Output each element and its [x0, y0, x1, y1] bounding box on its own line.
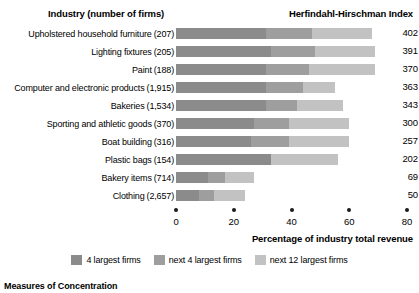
axis-tick-label: 20	[214, 216, 254, 227]
hhi-value: 363	[392, 81, 418, 92]
axis-tick-dot	[405, 208, 409, 212]
bar-segment-s1	[176, 172, 208, 183]
bar-segment-s3	[289, 136, 350, 147]
row-industry-label: Upholstered household furniture(207)	[28, 28, 174, 40]
stacked-bar	[176, 172, 254, 183]
bar-segment-s2	[266, 28, 312, 39]
hhi-value: 370	[392, 63, 418, 74]
hhi-value: 343	[392, 99, 418, 110]
axis-tick-label: 40	[272, 216, 312, 227]
stacked-bar	[176, 64, 375, 75]
bar-segment-s2	[199, 190, 213, 201]
industry-name: Sporting and athletic goods	[47, 119, 152, 129]
industry-name: Lighting fixtures	[91, 47, 152, 57]
concentration-chart: Industry (number of firms) Herfindahl-Hi…	[0, 0, 419, 293]
hhi-value: 50	[392, 189, 418, 200]
industry-name: Upholstered household furniture	[28, 29, 151, 39]
firm-count: (714)	[154, 173, 174, 183]
firm-count: (2,657)	[147, 191, 174, 201]
firm-count: (1,534)	[147, 101, 174, 111]
row-industry-label: Boat building(316)	[102, 136, 174, 148]
hhi-value: 69	[392, 171, 418, 182]
bar-segment-s2	[266, 82, 304, 93]
bar-segment-s1	[176, 190, 199, 201]
industry-name: Plastic bags	[105, 155, 152, 165]
hhi-value: 202	[392, 153, 418, 164]
bar-segment-s1	[176, 154, 271, 165]
bar-segment-s1	[176, 118, 254, 129]
axis-tick-label: 0	[156, 216, 196, 227]
bar-segment-s2	[254, 118, 289, 129]
stacked-bar	[176, 100, 343, 111]
bar-segment-s1	[176, 136, 251, 147]
table-row: Plastic bags(154)202	[0, 154, 419, 168]
legend-swatch-s1	[71, 255, 82, 265]
stacked-bar	[176, 82, 335, 93]
table-row: Lighting fixtures(205)391	[0, 46, 419, 60]
row-industry-label: Paint(188)	[132, 64, 174, 76]
axis-tick-dot	[347, 208, 351, 212]
bar-segment-s2	[208, 172, 225, 183]
axis-tick-dot	[174, 208, 178, 212]
bar-segment-s2	[266, 64, 309, 75]
bar-segment-s3	[214, 190, 246, 201]
bar-segment-s2	[266, 100, 298, 111]
legend-label: next 12 largest firms	[270, 255, 348, 265]
table-row: Upholstered household furniture(207)402	[0, 28, 419, 42]
legend-swatch-s2	[154, 255, 165, 265]
stacked-bar	[176, 136, 349, 147]
industry-name: Clothing	[113, 191, 145, 201]
industry-name: Bakery items	[102, 173, 152, 183]
bar-segment-s2	[251, 136, 289, 147]
bar-segment-s3	[309, 64, 375, 75]
row-industry-label: Bakery items(714)	[102, 172, 174, 184]
table-row: Sporting and athletic goods(370)300	[0, 118, 419, 132]
hhi-value: 391	[392, 45, 418, 56]
legend-label: 4 largest firms	[86, 255, 140, 265]
legend-item: 4 largest firms	[71, 255, 140, 265]
firm-count: (370)	[154, 119, 174, 129]
bar-segment-s3	[312, 28, 373, 39]
stacked-bar	[176, 28, 372, 39]
firm-count: (188)	[154, 65, 174, 75]
table-row: Bakery items(714)69	[0, 172, 419, 186]
chart-legend: 4 largest firmsnext 4 largest firmsnext …	[0, 253, 419, 267]
row-industry-label: Clothing(2,657)	[113, 190, 174, 202]
row-industry-label: Plastic bags(154)	[105, 154, 174, 166]
stacked-bar	[176, 46, 375, 57]
bar-segment-s1	[176, 100, 266, 111]
row-industry-label: Lighting fixtures(205)	[91, 46, 174, 58]
hhi-value: 300	[392, 117, 418, 128]
bar-segment-s3	[271, 154, 337, 165]
stacked-bar	[176, 118, 349, 129]
top-edge-strip	[0, 0, 419, 3]
axis-tick-label: 60	[329, 216, 369, 227]
hhi-column-header: Herfindahl-Hirschman Index	[289, 8, 413, 19]
firm-count: (154)	[154, 155, 174, 165]
stacked-bar	[176, 190, 245, 201]
table-row: Paint(188)370	[0, 64, 419, 78]
figure-caption: Measures of Concentration	[4, 281, 118, 291]
bar-segment-s3	[289, 118, 350, 129]
stacked-bar	[176, 154, 338, 165]
hhi-value: 402	[392, 27, 418, 38]
row-industry-label: Bakeries(1,534)	[111, 100, 174, 112]
legend-item: next 12 largest firms	[255, 255, 348, 265]
bar-segment-s2	[271, 46, 314, 57]
axis-tick-dot	[232, 208, 236, 212]
bar-segment-s1	[176, 28, 266, 39]
industry-column-header: Industry (number of firms)	[48, 8, 164, 19]
x-axis-title: Percentage of industry total revenue	[252, 233, 413, 244]
axis-tick-label: 80	[387, 216, 419, 227]
legend-swatch-s3	[255, 255, 266, 265]
table-row: Boat building(316)257	[0, 136, 419, 150]
legend-label: next 4 largest firms	[169, 255, 242, 265]
bar-segment-s3	[303, 82, 335, 93]
bar-segment-s3	[315, 46, 376, 57]
row-industry-label: Computer and electronic products(1,915)	[14, 82, 174, 94]
industry-name: Paint	[132, 65, 152, 75]
bar-segment-s1	[176, 46, 271, 57]
axis-tick-dot	[290, 208, 294, 212]
firm-count: (316)	[154, 137, 174, 147]
firm-count: (205)	[154, 47, 174, 57]
